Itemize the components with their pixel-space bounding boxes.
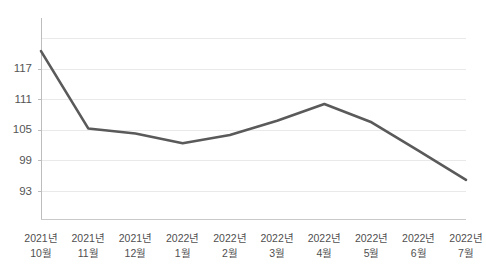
x-tick-label: 2022년6월 xyxy=(402,232,435,259)
y-axis-tick-labels: 1171111059993 xyxy=(13,62,32,196)
y-tick-label: 111 xyxy=(15,93,32,105)
x-axis-tick-labels: 2021년10월2021년11월2021년12월2022년1월2022년2월20… xyxy=(24,232,482,259)
x-tick-label: 2022년1월 xyxy=(166,232,199,259)
gridlines xyxy=(41,39,466,192)
y-tick-label: 93 xyxy=(19,185,32,197)
x-tick-label: 2021년10월 xyxy=(24,232,57,259)
line-chart: 1171111059993 2021년10월2021년11월2021년12월20… xyxy=(0,0,486,273)
chart-canvas: 1171111059993 2021년10월2021년11월2021년12월20… xyxy=(0,0,486,273)
x-tick-label: 2021년12월 xyxy=(119,232,152,259)
x-tick-label: 2021년11월 xyxy=(72,232,105,259)
x-tick-label: 2022년4월 xyxy=(308,232,341,259)
axis-lines xyxy=(38,18,467,220)
x-tick-label: 2022년5월 xyxy=(355,232,388,259)
y-tick-label: 105 xyxy=(13,123,32,135)
y-tick-label: 99 xyxy=(19,154,32,166)
x-tick-label: 2022년7월 xyxy=(449,232,482,259)
x-tick-label: 2022년3월 xyxy=(260,232,293,259)
y-tick-label: 117 xyxy=(14,62,32,74)
x-tick-label: 2022년2월 xyxy=(213,232,246,259)
